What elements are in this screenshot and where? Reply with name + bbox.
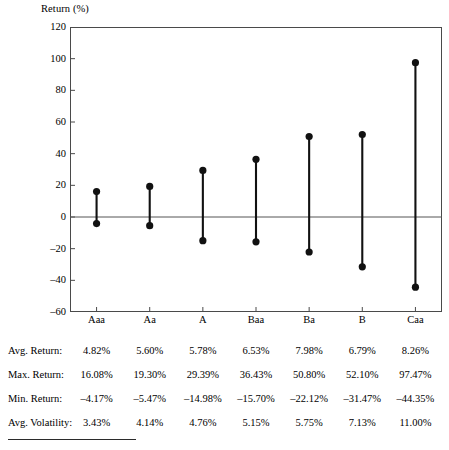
y-tick-label: 40 [36,148,66,159]
y-tick-label: 60 [36,117,66,128]
table-cell: 5.75% [284,410,334,434]
table-cell: –31.47% [337,386,387,410]
statistics-table: Avg. Return:4.82%5.60%5.78%6.53%7.98%6.7… [8,338,442,434]
table-cell: 6.79% [337,338,387,362]
table-cell: 6.53% [231,338,281,362]
table-cell: 4.14% [125,410,175,434]
min-return-marker [252,238,259,245]
table-cell: 7.13% [337,410,387,434]
table-cell: 36.43% [231,362,281,386]
y-tick-label: –60 [36,307,66,318]
y-tick-label: 0 [36,212,66,223]
table-cell: 19.30% [125,362,175,386]
y-tick-label: –20 [36,243,66,254]
max-return-marker [412,59,419,66]
table-cell: 5.78% [178,338,228,362]
min-return-marker [412,284,419,291]
table-cell: 16.08% [71,362,121,386]
table-cell: 29.39% [178,362,228,386]
x-axis-tick-labels: AaaAaABaaBaBCaa [70,315,442,331]
table-cell: –22.12% [284,386,334,410]
max-return-marker [199,167,206,174]
table-cell: 97.47% [390,362,440,386]
min-return-marker [359,263,366,270]
min-return-marker [93,220,100,227]
x-tick-label: B [359,315,366,326]
figure-container: Return (%) 120100806040200–20–40–60 AaaA… [0,0,449,450]
min-return-marker [146,222,153,229]
x-tick-label: Aa [144,315,156,326]
x-tick-label: Baa [248,315,264,326]
table-row: Avg. Return:4.82%5.60%5.78%6.53%7.98%6.7… [8,338,442,362]
table-cell: 52.10% [337,362,387,386]
table-cell: 50.80% [284,362,334,386]
table-cell: –4.17% [71,386,121,410]
min-return-marker [199,237,206,244]
x-tick-label: Ba [303,315,315,326]
footer-rule [8,439,136,440]
y-tick-label: 80 [36,85,66,96]
max-return-marker [252,156,259,163]
table-cell: 11.00% [390,410,440,434]
y-axis-title: Return (%) [41,3,89,14]
y-tick-label: 120 [36,22,66,33]
x-tick-label: Caa [407,315,423,326]
min-return-marker [306,248,313,255]
table-cell: 4.82% [71,338,121,362]
max-return-marker [93,188,100,195]
table-cell: –14.98% [178,386,228,410]
table-row: Max. Return:16.08%19.30%29.39%36.43%50.8… [8,362,442,386]
table-cell: 7.98% [284,338,334,362]
table-cell: 8.26% [390,338,440,362]
table-cell: –44.35% [390,386,440,410]
y-tick-label: 20 [36,180,66,191]
max-return-marker [306,133,313,140]
table-row: Avg. Volatility:3.43%4.14%4.76%5.15%5.75… [8,410,442,434]
x-tick-label: A [199,315,207,326]
table-cell: –15.70% [231,386,281,410]
max-return-marker [359,131,366,138]
y-tick-label: 100 [36,53,66,64]
x-tick-label: Aaa [88,315,105,326]
y-axis-tick-labels: 120100806040200–20–40–60 [33,27,66,312]
plot-area [70,27,442,312]
table-cell: 5.15% [231,410,281,434]
max-return-marker [146,183,153,190]
table-cell: 5.60% [125,338,175,362]
table-row: Min. Return:–4.17%–5.47%–14.98%–15.70%–2… [8,386,442,410]
table-cell: –5.47% [125,386,175,410]
table-cell: 3.43% [71,410,121,434]
y-tick-label: –40 [36,275,66,286]
table-cell: 4.76% [178,410,228,434]
